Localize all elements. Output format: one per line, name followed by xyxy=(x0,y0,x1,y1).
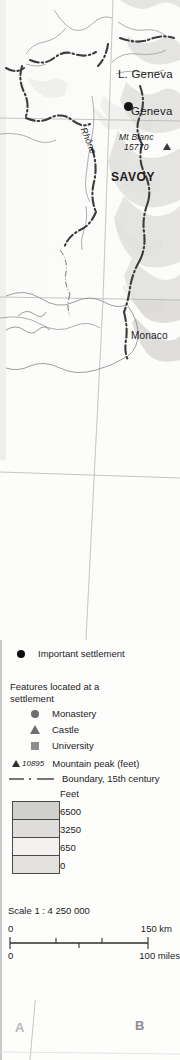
elevation-band xyxy=(13,856,59,873)
legend-label-boundary: Boundary, 15th century xyxy=(62,773,160,784)
castle-triangle-icon xyxy=(18,725,52,734)
elevation-value-list: 6500 3250 650 0 xyxy=(60,803,81,875)
settlement-dot-icon xyxy=(4,650,38,658)
scale-ratio-label: Scale 1 : 4 250 000 xyxy=(8,905,90,916)
elevation-band xyxy=(13,838,59,856)
geneva-label: Geneva xyxy=(131,105,172,117)
savoy-region-label: SAVOY xyxy=(111,170,155,184)
map-legend: Important settlement Features located at… xyxy=(0,640,180,900)
lake-geneva-label: L. Geneva xyxy=(118,68,173,80)
boundary-line-icon xyxy=(8,775,56,783)
scale-bar xyxy=(0,935,180,951)
elevation-value: 6500 xyxy=(60,803,81,821)
legend-item-boundary: Boundary, 15th century xyxy=(8,773,160,784)
elevation-swatch-stack xyxy=(12,801,60,874)
scale-miles-start: 0 xyxy=(8,950,13,961)
legend-label-mountain-peak: Mountain peak (feet) xyxy=(52,758,139,769)
mountain-peak-icon xyxy=(163,143,171,150)
elevation-band xyxy=(13,820,59,838)
bottom-graticule xyxy=(0,1000,180,1060)
scale-km-start: 0 xyxy=(8,923,13,934)
legend-item-mountain-peak: 10895 Mountain peak (feet) xyxy=(12,758,139,769)
legend-peak-elevation-example: 10895 xyxy=(22,759,44,768)
legend-label-castle: Castle xyxy=(52,724,79,735)
legend-feet-header: Feet xyxy=(60,788,79,799)
legend-label-university: University xyxy=(52,740,94,751)
legend-item-monastery: Monastery xyxy=(18,708,96,719)
legend-item-important-settlement: Important settlement xyxy=(4,648,125,659)
map-page: L. Geneva Geneva Mt Blanc 15770 SAVOY Mo… xyxy=(0,0,180,1060)
monastery-circle-icon xyxy=(18,710,52,718)
peak-triangle-icon xyxy=(12,760,20,767)
legend-features-heading: Features located at a settlement xyxy=(10,681,130,704)
legend-label-important-settlement: Important settlement xyxy=(38,648,125,659)
university-square-icon xyxy=(18,742,52,750)
elevation-value: 0 xyxy=(60,857,81,875)
mont-blanc-name: Mt Blanc xyxy=(119,132,154,142)
scale-km-end: 150 km xyxy=(141,923,172,934)
elevation-band xyxy=(13,802,59,820)
legend-label-monastery: Monastery xyxy=(52,708,96,719)
elevation-value: 3250 xyxy=(60,821,81,839)
scale-miles-end: 100 miles xyxy=(139,950,180,961)
map-graphic xyxy=(0,0,180,640)
mont-blanc-label: Mt Blanc 15770 xyxy=(119,133,154,152)
legend-item-castle: Castle xyxy=(18,724,79,735)
elevation-value: 650 xyxy=(60,839,81,857)
monaco-label: Monaco xyxy=(131,330,168,341)
legend-item-university: University xyxy=(18,740,94,751)
mont-blanc-elevation: 15770 xyxy=(124,142,149,152)
map-panel[interactable]: L. Geneva Geneva Mt Blanc 15770 SAVOY Mo… xyxy=(0,0,180,640)
